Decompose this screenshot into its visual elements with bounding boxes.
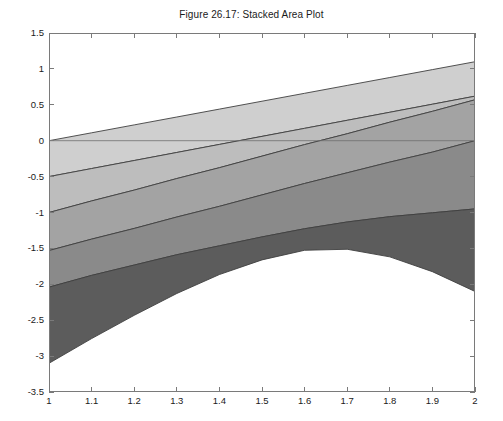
- x-tickmark: [176, 33, 177, 38]
- y-tickmark: [470, 140, 475, 141]
- y-tickmark: [470, 284, 475, 285]
- x-tickmark: [176, 387, 177, 392]
- y-axis-tick-label: 0: [0, 136, 44, 146]
- x-tickmark: [432, 33, 433, 38]
- y-tickmark: [49, 176, 54, 177]
- x-axis-tick-label: 1: [29, 396, 69, 406]
- y-tickmark: [470, 33, 475, 34]
- y-axis-tick-label: -1.5: [0, 243, 44, 253]
- y-tickmark: [49, 140, 54, 141]
- x-axis-tick-label: 2: [455, 396, 495, 406]
- chart-title: Figure 26.17: Stacked Area Plot: [0, 9, 503, 21]
- y-tickmark: [49, 356, 54, 357]
- x-tickmark: [91, 387, 92, 392]
- y-axis-tick-label: 0.5: [0, 100, 44, 110]
- y-tickmark: [49, 320, 54, 321]
- x-tickmark: [262, 387, 263, 392]
- x-axis-tick-label: 1.7: [327, 396, 367, 406]
- y-tickmark: [49, 68, 54, 69]
- y-tickmark: [470, 356, 475, 357]
- x-tickmark: [347, 33, 348, 38]
- x-tickmark: [432, 387, 433, 392]
- y-axis-tick-label: -2: [0, 279, 44, 289]
- y-tickmark: [470, 212, 475, 213]
- y-tickmark: [470, 392, 475, 393]
- y-tickmark: [49, 212, 54, 213]
- x-tickmark: [304, 387, 305, 392]
- y-tickmark: [470, 248, 475, 249]
- x-tickmark: [134, 387, 135, 392]
- x-tickmark: [389, 387, 390, 392]
- y-tickmark: [49, 248, 54, 249]
- x-tickmark: [389, 33, 390, 38]
- x-tickmark: [49, 33, 50, 38]
- y-tickmark: [470, 176, 475, 177]
- x-axis-tick-label: 1.6: [285, 396, 325, 406]
- y-axis-tick-label: -1: [0, 208, 44, 218]
- y-tickmark: [470, 104, 475, 105]
- y-tickmark: [49, 284, 54, 285]
- y-axis-tick-label: -0.5: [0, 172, 44, 182]
- y-tickmark: [49, 392, 54, 393]
- x-tickmark: [134, 33, 135, 38]
- area-bands-group: [49, 62, 475, 364]
- x-tickmark: [219, 33, 220, 38]
- y-tickmark: [49, 33, 54, 34]
- x-tickmark: [475, 33, 476, 38]
- y-axis-tick-label: 1: [0, 64, 44, 74]
- y-tickmark: [49, 104, 54, 105]
- figure-container: Figure 26.17: Stacked Area Plot 1.510.50…: [0, 0, 503, 421]
- x-axis-tick-label: 1.4: [199, 396, 239, 406]
- x-axis-tick-label: 1.9: [412, 396, 452, 406]
- x-tickmark: [304, 33, 305, 38]
- x-tickmark: [91, 33, 92, 38]
- x-tickmark: [219, 387, 220, 392]
- stacked-area-plot-svg: [49, 33, 475, 392]
- y-axis-tick-label: -2.5: [0, 315, 44, 325]
- x-tickmark: [347, 387, 348, 392]
- x-axis-tick-label: 1.3: [157, 396, 197, 406]
- x-axis-tick-label: 1.2: [114, 396, 154, 406]
- y-tickmark: [470, 68, 475, 69]
- x-axis-tick-label: 1.5: [242, 396, 282, 406]
- x-tickmark: [262, 33, 263, 38]
- y-axis-tick-label: -3: [0, 351, 44, 361]
- y-axis-tick-label: 1.5: [0, 28, 44, 38]
- y-tickmark: [470, 320, 475, 321]
- x-axis-tick-label: 1.1: [72, 396, 112, 406]
- plot-area: [49, 33, 475, 392]
- x-axis-tick-label: 1.8: [370, 396, 410, 406]
